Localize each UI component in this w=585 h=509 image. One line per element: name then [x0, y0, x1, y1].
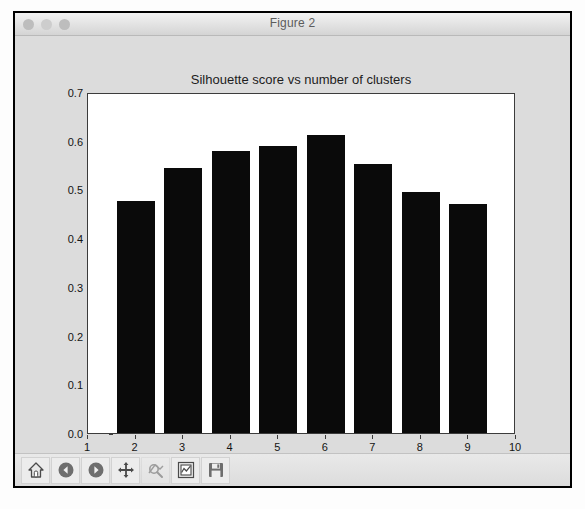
- subplots-config-icon: [177, 461, 195, 479]
- x-tick-label: 6: [314, 441, 336, 453]
- x-tick-mark: [420, 435, 421, 439]
- back-arrow-icon: [57, 461, 75, 479]
- x-tick-mark: [135, 435, 136, 439]
- y-tick-label: 0.2: [43, 331, 83, 343]
- x-tick-label: 2: [124, 441, 146, 453]
- x-tick-mark: [515, 435, 516, 439]
- chart-title: Silhouette score vs number of clusters: [87, 72, 515, 87]
- y-tick-label: 0.3: [43, 282, 83, 294]
- figure-canvas: Silhouette score vs number of clusters 0…: [15, 36, 570, 456]
- x-tick-mark: [182, 435, 183, 439]
- navigation-toolbar: [15, 453, 570, 486]
- bar: [164, 168, 202, 433]
- x-tick-mark: [325, 435, 326, 439]
- y-tick-label: 0.5: [43, 184, 83, 196]
- x-tick-label: 5: [266, 441, 288, 453]
- y-axis-ticks: 0.00.10.20.30.40.50.60.7: [37, 93, 83, 434]
- y-tick-label: 0.6: [43, 136, 83, 148]
- x-tick-mark: [372, 435, 373, 439]
- subplots-config-button[interactable]: [171, 457, 200, 484]
- home-icon: [27, 461, 45, 479]
- x-tick-label: 8: [409, 441, 431, 453]
- figure-window: Figure 2 Silhouette score vs number of c…: [13, 11, 572, 488]
- window-titlebar[interactable]: Figure 2: [15, 13, 570, 36]
- x-tick-mark: [87, 435, 88, 439]
- x-tick-label: 9: [456, 441, 478, 453]
- bar: [212, 151, 250, 433]
- x-tick-mark: [467, 435, 468, 439]
- x-tick-label: 3: [171, 441, 193, 453]
- bar: [307, 135, 345, 433]
- x-tick-mark: [230, 435, 231, 439]
- y-tick-label: 0.0: [43, 428, 83, 440]
- save-floppy-button[interactable]: [201, 457, 230, 484]
- window-title: Figure 2: [15, 16, 570, 30]
- x-tick-label: 10: [504, 441, 526, 453]
- x-tick-label: 7: [361, 441, 383, 453]
- x-tick-mark: [277, 435, 278, 439]
- forward-arrow-icon: [87, 461, 105, 479]
- back-arrow-button[interactable]: [51, 457, 80, 484]
- save-floppy-icon: [207, 461, 225, 479]
- y-tick-label: 0.1: [43, 379, 83, 391]
- forward-arrow-button[interactable]: [81, 457, 110, 484]
- pan-move-icon: [117, 461, 135, 479]
- pan-move-button[interactable]: [111, 457, 140, 484]
- plot-area[interactable]: [87, 93, 515, 434]
- y-tick-label: 0.4: [43, 233, 83, 245]
- x-tick-label: 4: [219, 441, 241, 453]
- bar: [259, 146, 297, 433]
- zoom-rect-icon: [147, 461, 165, 479]
- bar: [117, 201, 155, 433]
- screen: Figure 2 Silhouette score vs number of c…: [0, 0, 585, 509]
- bar: [354, 164, 392, 433]
- bar: [449, 204, 487, 433]
- home-button[interactable]: [21, 457, 50, 484]
- x-tick-label: 1: [76, 441, 98, 453]
- zoom-rect-button[interactable]: [141, 457, 170, 484]
- bar: [402, 192, 440, 433]
- y-tick-label: 0.7: [43, 87, 83, 99]
